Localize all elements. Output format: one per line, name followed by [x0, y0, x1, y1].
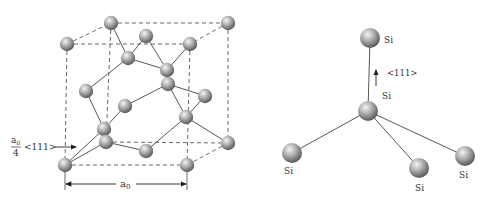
si-atom [139, 29, 153, 43]
diagram-canvas: a0 a0 4 <111> SiSiSiSiSi <111> [0, 0, 493, 199]
si-label-middle: Si [415, 183, 424, 193]
bond [368, 38, 370, 111]
si-atom [180, 158, 194, 172]
bond [125, 84, 168, 106]
offset-label: a0 4 <111> [11, 135, 76, 158]
si-atom-left [282, 143, 302, 163]
lattice-constant-label: a0 [120, 178, 130, 191]
si-atom-right [455, 146, 475, 166]
si-atom [118, 99, 132, 113]
si-label-top: Si [384, 35, 393, 45]
bond [146, 117, 186, 151]
si-atom [221, 16, 235, 30]
lattice-atoms [58, 16, 235, 172]
si-atom [179, 110, 193, 124]
si-atom [161, 77, 175, 91]
si-atom [99, 135, 113, 149]
si-atom-middle [409, 158, 429, 178]
si-atom [183, 37, 197, 51]
si-atom-center [358, 101, 378, 121]
offset-fraction-numerator: a0 [11, 135, 20, 146]
si-atom [121, 51, 135, 65]
si-atom [58, 158, 72, 172]
offset-direction-label: <111> [24, 142, 56, 152]
lattice-constant-dimension: a0 [65, 172, 187, 191]
si-atom-top [360, 28, 380, 48]
tetrahedral-bonds [292, 38, 465, 168]
si-atom [160, 63, 174, 77]
bond [186, 117, 228, 143]
si-atom [79, 84, 93, 98]
si-atom [221, 136, 235, 150]
bond [86, 58, 128, 91]
cell-edge [187, 44, 190, 165]
cell-edge [106, 142, 228, 143]
si-atom [97, 122, 111, 136]
si-label-center: Si [382, 91, 391, 101]
si-label-right: Si [459, 170, 468, 180]
direction-label: <111> [387, 68, 417, 78]
direction-indicator: <111> [376, 68, 417, 86]
cell-edge [67, 23, 111, 44]
offset-fraction-denominator: 4 [13, 148, 19, 158]
si-atom [198, 89, 212, 103]
si-atom [60, 37, 74, 51]
si-atom [139, 144, 153, 158]
si-label-left: Si [284, 166, 293, 176]
tetrahedral-atoms [282, 28, 475, 178]
si-atom [104, 16, 118, 30]
bond [368, 111, 465, 156]
bond [292, 111, 368, 153]
bond [368, 111, 419, 168]
